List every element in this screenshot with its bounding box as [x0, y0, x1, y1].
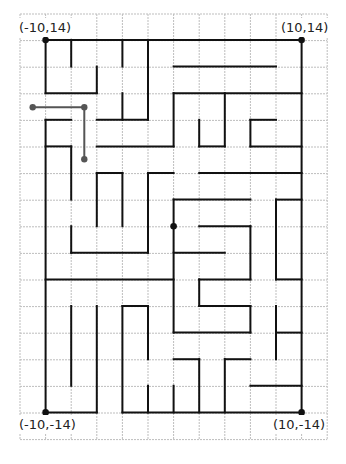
- label-top-left: (-10,14): [18, 18, 72, 37]
- corner-point: [298, 37, 305, 44]
- path-node: [81, 104, 87, 110]
- path-line: [33, 107, 85, 159]
- maze-diagram: [0, 0, 346, 464]
- label-bottom-right: (10,-14): [272, 415, 326, 434]
- marker-point: [170, 223, 177, 230]
- path-node: [81, 156, 87, 162]
- solution-path: [30, 104, 88, 162]
- corner-point: [42, 37, 49, 44]
- label-top-right: (10,14): [280, 18, 329, 37]
- label-bottom-left: (-10,-14): [18, 415, 77, 434]
- path-node: [30, 104, 36, 110]
